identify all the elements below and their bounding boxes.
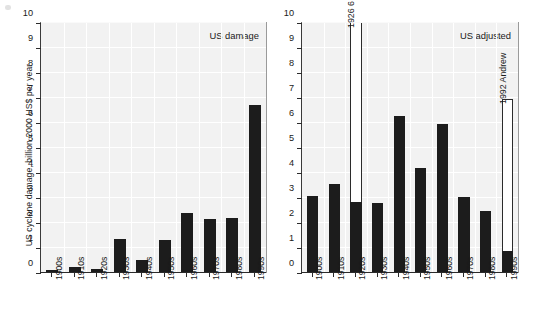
x-axis-tick — [355, 272, 356, 277]
x-axis-tick — [312, 272, 313, 277]
y-axis-tick-label: 9 — [28, 34, 33, 43]
x-axis-tick — [209, 272, 210, 277]
y-axis-tick-label: 8 — [28, 59, 33, 68]
y-axis-tick — [36, 98, 41, 99]
gridline-vertical — [367, 23, 368, 273]
y-axis-tick-label: 1 — [28, 234, 33, 243]
y-axis-tick — [297, 148, 302, 149]
y-axis-tick-label: 5 — [28, 134, 33, 143]
gridline-vertical — [64, 23, 65, 273]
x-axis-tick-label: 1920s — [100, 257, 109, 280]
x-axis-tick-label: 1990s — [510, 257, 519, 280]
x-axis-tick — [254, 272, 255, 277]
y-axis-tick-label: 0 — [289, 259, 294, 268]
x-axis-tick-label: 1940s — [402, 257, 411, 280]
y-axis-tick-label: 3 — [289, 184, 294, 193]
y-axis-tick-label: 8 — [289, 59, 294, 68]
x-axis-tick-label: 1980s — [235, 257, 244, 280]
gridline-vertical — [345, 23, 346, 273]
panel-title-right: US adjusted — [460, 30, 511, 41]
gridline-vertical — [176, 23, 177, 273]
gridline-vertical — [131, 23, 132, 273]
y-axis-tick-label: 10 — [23, 9, 33, 18]
bar-annotation: 1926 6 (Dade & Broward) — [347, 0, 356, 28]
y-axis-tick — [36, 123, 41, 124]
y-axis-tick-label: 9 — [289, 34, 294, 43]
gridline-vertical — [453, 23, 454, 273]
x-axis-tick — [506, 272, 507, 277]
x-axis-tick-label: 1960s — [190, 257, 199, 280]
x-axis-tick — [186, 272, 187, 277]
x-axis-tick — [463, 272, 464, 277]
x-axis-tick — [119, 272, 120, 277]
x-axis-tick-label: 1960s — [445, 257, 454, 280]
x-axis-tick — [333, 272, 334, 277]
y-axis-tick — [297, 48, 302, 49]
x-axis-tick-label: 1920s — [358, 257, 367, 280]
x-axis-tick-label: 1970s — [212, 257, 221, 280]
x-axis-tick — [485, 272, 486, 277]
gridline-vertical — [324, 23, 325, 273]
gridline-vertical — [475, 23, 476, 273]
x-axis-tick-label: 1900s — [55, 257, 64, 280]
bar-annotation: 1992 Andrew — [499, 53, 508, 104]
gridline-vertical — [410, 23, 411, 273]
y-axis-tick-label: 2 — [289, 209, 294, 218]
y-axis-tick-label: 4 — [289, 159, 294, 168]
y-axis-tick — [297, 223, 302, 224]
bar — [394, 116, 405, 274]
y-axis-tick — [36, 148, 41, 149]
y-axis-tick — [36, 223, 41, 224]
y-axis-tick — [36, 198, 41, 199]
gridline-vertical — [221, 23, 222, 273]
x-axis-tick — [96, 272, 97, 277]
x-axis-tick — [441, 272, 442, 277]
scan-artifact-speck — [5, 5, 11, 10]
y-axis-tick-label: 5 — [289, 134, 294, 143]
plot-area-right: US adjusted 0123456789101926 6 (Dade & B… — [301, 22, 519, 273]
y-axis-tick-label: 3 — [28, 184, 33, 193]
y-axis-tick — [297, 123, 302, 124]
bar-extension-outlier — [502, 99, 513, 273]
y-axis-tick — [36, 248, 41, 249]
x-axis-tick-label: 1930s — [122, 257, 131, 280]
x-axis-tick — [377, 272, 378, 277]
gridline-vertical — [109, 23, 110, 273]
x-axis-tick — [164, 272, 165, 277]
y-axis-tick — [36, 48, 41, 49]
y-axis-tick-label: 2 — [28, 209, 33, 218]
bar — [437, 124, 448, 274]
x-axis-tick — [420, 272, 421, 277]
y-axis-tick — [36, 73, 41, 74]
gridline-vertical — [199, 23, 200, 273]
y-axis-tick-label: 7 — [289, 84, 294, 93]
gridline-vertical — [244, 23, 245, 273]
y-axis-tick-label: 1 — [289, 234, 294, 243]
y-axis-tick-label: 0 — [28, 259, 33, 268]
x-axis-tick-label: 1990s — [257, 257, 266, 280]
gridline-vertical — [432, 23, 433, 273]
plot-area-left: US damage 012345678910 — [40, 22, 267, 273]
x-axis-tick — [398, 272, 399, 277]
x-axis-tick-label: 1910s — [337, 257, 346, 280]
y-axis-tick — [297, 73, 302, 74]
y-axis-tick — [36, 173, 41, 174]
gridline-vertical — [154, 23, 155, 273]
x-axis-tick-label: 1980s — [488, 257, 497, 280]
gridline-vertical — [86, 23, 87, 273]
x-axis-tick-label: 1940s — [145, 257, 154, 280]
y-axis-tick-label: 6 — [28, 109, 33, 118]
x-axis-tick — [74, 272, 75, 277]
y-axis-tick-label: 6 — [289, 109, 294, 118]
x-axis-tick-label: 1950s — [423, 257, 432, 280]
x-axis-tick — [231, 272, 232, 277]
x-axis-tick-label: 1970s — [466, 257, 475, 280]
x-axis-tick-label: 1930s — [380, 257, 389, 280]
y-axis-tick-label: 4 — [28, 159, 33, 168]
x-axis-tick-label: 1910s — [77, 257, 86, 280]
y-axis-tick — [297, 198, 302, 199]
bar — [249, 105, 261, 273]
y-axis-tick — [297, 173, 302, 174]
gridline-vertical — [388, 23, 389, 273]
y-axis-tick-label: 10 — [284, 9, 294, 18]
